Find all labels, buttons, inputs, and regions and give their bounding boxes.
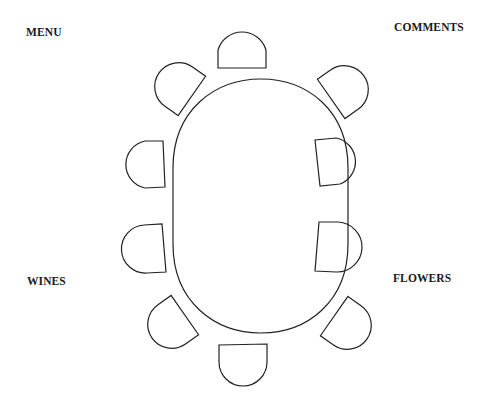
chair-lower-left — [138, 295, 198, 357]
chair-top — [218, 32, 266, 68]
chair-bottom — [219, 344, 267, 386]
table-outline — [173, 79, 348, 333]
chair-left-2 — [121, 224, 166, 273]
seating-plan-diagram — [0, 0, 484, 402]
chair-right-2 — [315, 222, 362, 272]
chair-upper-right — [317, 56, 377, 118]
chair-upper-left — [145, 53, 205, 115]
chair-right-1 — [315, 138, 355, 186]
chair-left-1 — [126, 141, 165, 188]
chair-lower-right — [320, 296, 380, 358]
